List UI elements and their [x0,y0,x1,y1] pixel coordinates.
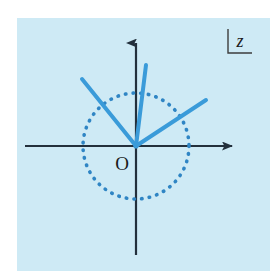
origin-point [133,143,138,148]
complex-plane-figure: O z [0,0,270,271]
origin-label: O [115,153,129,174]
panel-texture-overlay [17,18,270,271]
variable-label-z: z [235,31,243,51]
figure-container: O z [0,0,270,271]
